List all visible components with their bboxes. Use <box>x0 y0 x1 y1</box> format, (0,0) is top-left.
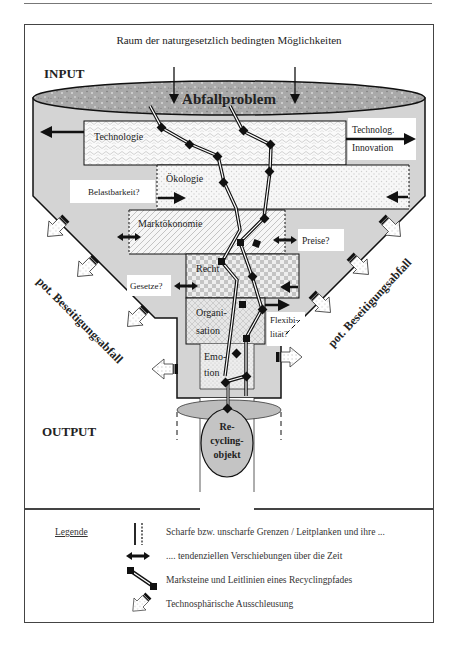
recycling-object-line2: cycling- <box>210 435 243 446</box>
layer-label-technologie: Technologie <box>94 131 144 142</box>
layer-oekologie <box>157 165 409 209</box>
recycling-object-line3: objekt <box>213 449 241 460</box>
path-milestone-icon <box>127 567 157 590</box>
diagram-header: Raum der naturgesetzlich bedingten Mögli… <box>116 34 342 46</box>
layer-label-emotion-2: tion <box>204 367 220 378</box>
layer-label-oekologie: Ökologie <box>166 173 204 184</box>
legend-item-exit: Technosphärische Ausschleusung <box>166 599 293 609</box>
legend-item-recycling-path: Marksteine und Leitlinien eines Recyclin… <box>166 575 352 585</box>
label-flexibilitaet-2: lität? <box>270 329 288 339</box>
label-innovation: Innovation <box>352 143 393 153</box>
label-technolog: Technolog. <box>352 125 394 135</box>
boundary-lines-icon <box>135 523 142 545</box>
layer-label-emotion-1: Emo- <box>204 351 226 362</box>
label-gesetze: Gesetze? <box>130 281 162 291</box>
layer-label-organisation-2: sation <box>196 325 220 336</box>
layer-label-recht: Recht <box>196 263 220 274</box>
label-flexibilitaet-1: Flexibi- <box>270 315 299 325</box>
output-label: OUTPUT <box>42 424 97 439</box>
input-label: INPUT <box>44 66 85 81</box>
legend-title: Legende <box>55 527 88 537</box>
legend-item-boundaries: Scharfe bzw. unscharfe Grenzen / Leitpla… <box>166 527 385 537</box>
layer-label-marktoekonomie: Marktökonomie <box>138 218 203 229</box>
abfallproblem-label: Abfallproblem <box>182 91 276 107</box>
waste-label-left: pot. Beseitigungsabfall <box>34 274 126 366</box>
recycling-funnel-diagram: Raum der naturgesetzlich bedingten Mögli… <box>0 0 456 646</box>
label-belastbarkeit: Belastbarkeit? <box>88 187 139 197</box>
double-arrow-icon <box>126 552 150 560</box>
legend-item-shifts: .... tendenziellen Verschiebungen über d… <box>166 551 342 561</box>
layer-recht <box>186 254 299 298</box>
layer-organisation <box>186 298 265 344</box>
exit-arrow-icon <box>127 590 155 618</box>
label-preise: Preise? <box>302 236 329 246</box>
exit-arrow-icon <box>152 359 178 379</box>
recycling-object-line1: Re- <box>220 421 235 432</box>
layer-label-organisation-1: Organi- <box>196 307 227 318</box>
